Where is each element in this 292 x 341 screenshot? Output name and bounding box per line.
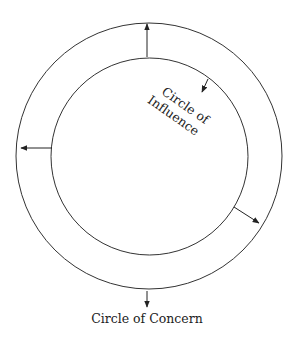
arrow-inward-icon xyxy=(202,79,208,92)
arrow-lower-right-icon xyxy=(234,207,259,223)
inner-circle-circle-of-influence xyxy=(51,58,248,255)
circle-diagram: Circle of Influence Circle of Concern xyxy=(0,0,292,341)
outer-circle-circle-of-concern xyxy=(16,23,282,289)
outer-circle-label: Circle of Concern xyxy=(91,311,203,326)
diagram-canvas: Circle of Influence Circle of Concern xyxy=(0,0,292,341)
